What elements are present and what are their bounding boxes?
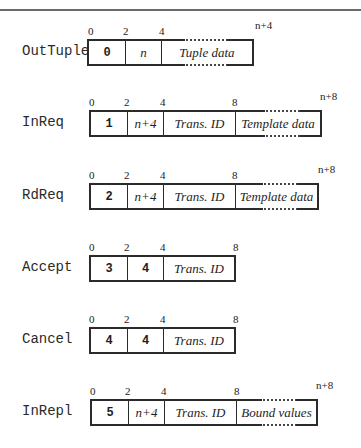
field-length: 4	[127, 257, 163, 280]
offset-label: 0	[90, 386, 96, 397]
variable-length-marker	[263, 183, 297, 185]
variable-length-marker	[185, 64, 227, 66]
offset-label: n+8	[318, 164, 335, 175]
field-type-code: 1	[91, 112, 127, 135]
field-type-code: 3	[91, 257, 127, 280]
offset-label: n+8	[320, 91, 337, 102]
offset-label: 8	[234, 386, 240, 397]
field-type-code: 4	[91, 329, 127, 352]
message-row-cancel: Cancel 0 2 4 8 4 4 Trans. ID	[0, 314, 361, 364]
message-box: 4 4 Trans. ID	[89, 327, 236, 354]
message-box: 0 n Tuple data	[87, 39, 254, 66]
field-trans-id: Trans. ID	[164, 401, 236, 424]
variable-length-marker	[262, 399, 296, 401]
field-length: n+4	[127, 185, 163, 208]
message-box: 1 n+4 Trans. ID Template data	[89, 110, 322, 137]
field-tuple-data: Tuple data	[161, 41, 252, 64]
offset-label: 4	[160, 242, 166, 253]
field-length: n+4	[127, 112, 163, 135]
message-box: 5 n+4 Trans. ID Bound values	[90, 399, 318, 426]
offset-label: 2	[124, 170, 130, 181]
field-trans-id: Trans. ID	[163, 329, 234, 352]
field-type-code: 0	[89, 41, 125, 64]
message-row-inrepl: InRepl 0 2 4 8 n+8 5 n+4 Trans. ID Bound…	[0, 386, 361, 436]
message-name: RdReq	[22, 187, 64, 203]
offset-label: 4	[160, 170, 166, 181]
field-trans-id: Trans. ID	[163, 257, 234, 280]
offset-label: 0	[89, 97, 95, 108]
variable-length-marker	[265, 135, 300, 137]
offset-label: 4	[159, 26, 165, 37]
variable-length-marker	[262, 424, 296, 426]
offset-label: 4	[160, 314, 166, 325]
message-box: 2 n+4 Trans. ID Template data	[89, 183, 319, 210]
message-row-inreq: InReq 0 2 4 8 n+8 1 n+4 Trans. ID Templa…	[0, 97, 361, 147]
field-type-code: 2	[91, 185, 127, 208]
message-name: Accept	[22, 259, 72, 275]
message-row-rdreq: RdReq 0 2 4 8 n+8 2 n+4 Trans. ID Templa…	[0, 170, 361, 220]
field-length: n+4	[128, 401, 164, 424]
offset-label: 8	[233, 314, 239, 325]
message-name: OutTuple	[22, 43, 89, 59]
message-name: InRepl	[22, 403, 72, 419]
offset-label: 8	[233, 242, 239, 253]
message-row-outtuple: OutTuple 0 2 4 n+4 0 n Tuple data	[0, 26, 361, 76]
offset-label: 2	[124, 242, 130, 253]
offset-label: 2	[124, 97, 130, 108]
offset-label: 2	[123, 26, 129, 37]
offset-label: 0	[89, 314, 95, 325]
message-box: 3 4 Trans. ID	[89, 255, 236, 282]
variable-length-marker	[265, 110, 300, 112]
offset-label: 4	[161, 386, 167, 397]
field-length: 4	[127, 329, 163, 352]
field-trans-id: Trans. ID	[163, 112, 235, 135]
variable-length-marker	[263, 208, 297, 210]
offset-label: 0	[89, 242, 95, 253]
message-name: Cancel	[22, 331, 72, 347]
top-rule	[0, 9, 361, 11]
offset-label: 8	[232, 97, 238, 108]
variable-length-marker	[185, 39, 227, 41]
field-trans-id: Trans. ID	[163, 185, 235, 208]
offset-label: 0	[89, 170, 95, 181]
offset-label: n+8	[316, 380, 333, 391]
field-type-code: 5	[92, 401, 128, 424]
message-row-accept: Accept 0 2 4 8 3 4 Trans. ID	[0, 242, 361, 292]
field-length: n	[125, 41, 161, 64]
offset-label: 0	[88, 26, 94, 37]
offset-label: n+4	[255, 20, 272, 31]
field-bound-values: Bound values	[236, 401, 316, 424]
offset-label: 2	[124, 314, 130, 325]
field-template-data: Template data	[235, 185, 317, 208]
message-name: InReq	[22, 114, 64, 130]
offset-label: 8	[232, 170, 238, 181]
field-template-data: Template data	[235, 112, 320, 135]
offset-label: 2	[125, 386, 131, 397]
offset-label: 4	[160, 97, 166, 108]
